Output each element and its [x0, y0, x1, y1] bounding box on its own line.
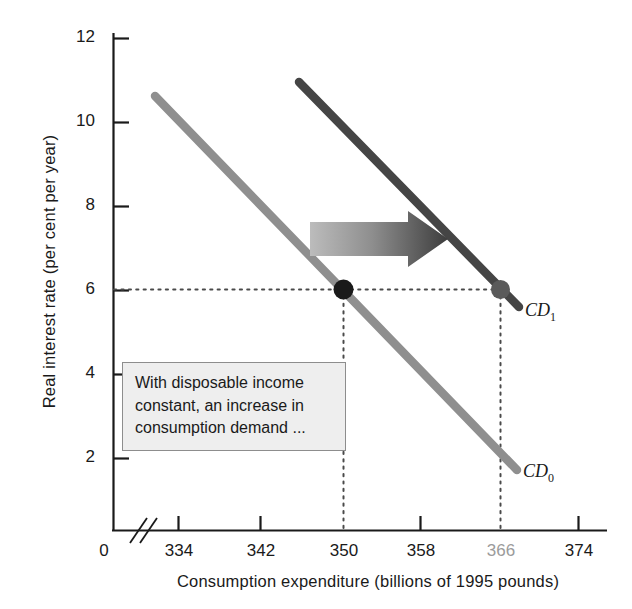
- origin-label: 0: [84, 541, 124, 561]
- x-tick-label-374: 374: [549, 541, 609, 561]
- equilibrium-point-cd0: [334, 280, 354, 300]
- y-tick-label-6: 6: [55, 279, 95, 299]
- y-axis-title: Real interest rate (per cent per year): [40, 107, 59, 437]
- shift-arrow: [310, 211, 448, 267]
- cd1-label-text: CD: [525, 300, 550, 320]
- y-tick-label-4: 4: [55, 363, 95, 383]
- x-tick-label-366: 366: [471, 541, 531, 561]
- x-axis-ticks: [179, 516, 579, 530]
- cd0-label-subscript: 0: [548, 471, 554, 485]
- annotation-line-2: constant, an increase in: [135, 395, 333, 418]
- cd0-label-text: CD: [523, 461, 548, 481]
- y-tick-label-2: 2: [55, 447, 95, 467]
- cd1-label-subscript: 1: [550, 310, 556, 324]
- y-tick-label-10: 10: [55, 111, 95, 131]
- y-tick-label-12: 12: [55, 27, 95, 47]
- y-tick-label-8: 8: [55, 195, 95, 215]
- consumption-demand-chart: Real interest rate (per cent per year) C…: [0, 0, 632, 609]
- cd1-curve-label: CD1: [525, 300, 556, 325]
- annotation-line-1: With disposable income: [135, 372, 333, 395]
- annotation-line-3: consumption demand ...: [135, 417, 333, 440]
- x-tick-label-358: 358: [391, 541, 451, 561]
- x-tick-label-350: 350: [314, 541, 374, 561]
- x-axis-title: Consumption expenditure (billions of 199…: [118, 572, 618, 591]
- annotation-textbox: With disposable income constant, an incr…: [122, 362, 346, 451]
- x-tick-label-342: 342: [231, 541, 291, 561]
- cd0-curve-label: CD0: [523, 461, 554, 486]
- x-tick-label-334: 334: [149, 541, 209, 561]
- equilibrium-point-cd1: [491, 280, 510, 299]
